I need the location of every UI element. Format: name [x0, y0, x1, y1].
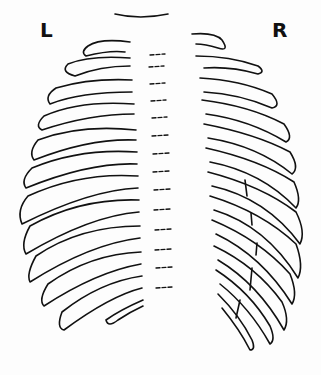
fracture-marks — [236, 180, 257, 318]
rib-cage-drawing — [0, 0, 321, 375]
spine-dashes — [149, 54, 172, 288]
left-ribs — [20, 41, 143, 330]
rib-cage-diagram: L R — [0, 0, 321, 375]
manubrium — [115, 14, 168, 17]
